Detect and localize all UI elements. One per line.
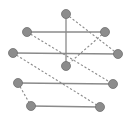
edge-I-J-solid: [31, 106, 100, 107]
graph-diagram: [0, 0, 129, 117]
node-G: [14, 79, 23, 88]
node-J: [96, 103, 105, 112]
node-B: [23, 28, 32, 37]
edge-G-H-solid: [18, 83, 113, 84]
node-D: [9, 49, 18, 58]
node-A: [62, 10, 71, 19]
node-E: [114, 50, 123, 59]
node-I: [27, 102, 36, 111]
edge-D-J-dashed: [13, 53, 100, 107]
node-F: [62, 62, 71, 71]
edge-A-E-dashed: [66, 14, 118, 54]
node-C: [101, 28, 110, 37]
edge-C-F-dashed: [66, 32, 105, 66]
node-H: [109, 80, 118, 89]
